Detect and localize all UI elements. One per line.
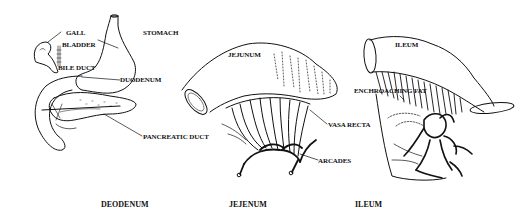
label-pancreatic-duct: PANCREATIC DUCT xyxy=(143,134,209,141)
label-jejunum: JEJUNUM xyxy=(228,52,261,59)
caption-jejunum: JEJENUM xyxy=(229,201,267,209)
label-ileum: ILEUM xyxy=(395,42,418,49)
jejunum-drawing xyxy=(181,43,337,177)
label-arcades: ARCADES xyxy=(318,158,351,165)
label-stomach: STOMACH xyxy=(143,30,178,37)
label-bladder: BLADDER xyxy=(62,42,96,49)
caption-ileum: ILEUM xyxy=(355,201,382,209)
caption-duodenum: DEODENUM xyxy=(101,201,149,209)
label-gall: GALL xyxy=(66,30,85,37)
label-encroaching-fat: ENCHROACHING FAT xyxy=(354,88,427,95)
ileum-drawing xyxy=(363,37,515,181)
label-vasa-recta: VASA RECTA xyxy=(328,122,371,129)
label-bile-duct: BILE DUCT xyxy=(58,65,95,72)
anatomy-figure: GALL BLADDER BILE DUCT STOMACH DUODENUM … xyxy=(0,0,521,218)
label-duodenum: DUODENUM xyxy=(120,77,161,84)
